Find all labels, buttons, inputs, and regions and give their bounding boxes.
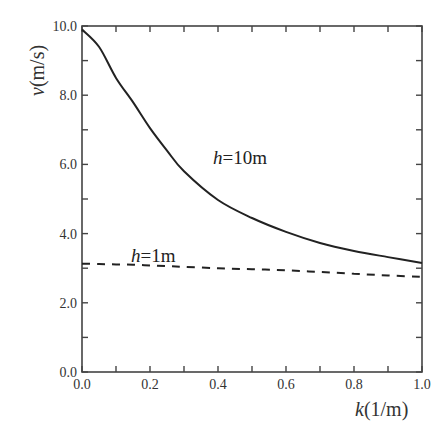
tick-labels: 0.00.20.40.60.81.00.02.04.06.08.010.0 <box>53 19 431 392</box>
y-tick-label: 6.0 <box>60 157 78 172</box>
y-tick-label: 10.0 <box>53 19 78 34</box>
y-tick-label: 2.0 <box>60 296 78 311</box>
x-tick-label: 0.2 <box>141 377 159 392</box>
series-label-h1: h=1m <box>131 245 176 266</box>
plot-frame <box>82 26 422 372</box>
y-tick-label: 4.0 <box>60 227 78 242</box>
x-tick-label: 0.8 <box>345 377 363 392</box>
x-tick-label: 1.0 <box>413 377 431 392</box>
series-label-h10: h=10m <box>213 147 267 168</box>
axis-ticks <box>82 26 422 372</box>
x-tick-label: 0.4 <box>209 377 227 392</box>
y-tick-label: 0.0 <box>60 365 78 380</box>
y-axis-title: v(m/s) <box>26 45 49 96</box>
line-chart: 0.00.20.40.60.81.00.02.04.06.08.010.0 h=… <box>0 0 446 432</box>
y-tick-label: 8.0 <box>60 88 78 103</box>
x-tick-label: 0.6 <box>277 377 295 392</box>
x-axis-title: k(1/m) <box>355 398 408 421</box>
